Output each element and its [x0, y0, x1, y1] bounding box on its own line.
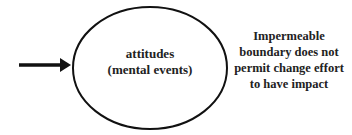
input-arrow-icon [19, 58, 71, 72]
ellipse-label-line1: attitudes [90, 46, 210, 62]
ellipse-label: attitudes (mental events) [90, 46, 210, 78]
ellipse-label-line2: (mental events) [90, 62, 210, 78]
boundary-note: Impermeable boundary does not permit cha… [232, 28, 346, 92]
